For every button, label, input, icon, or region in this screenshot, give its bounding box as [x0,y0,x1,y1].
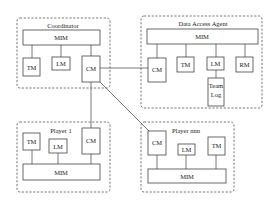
group-player-1: Player 1 TM LM CM MIM [17,122,110,192]
group-coordinator: Coordinator MIM TM LM CM [17,18,110,88]
coordinator-title: Coordinator [47,22,79,29]
playernnn-title: Player nnn [172,127,201,134]
player1-cm-label: CM [86,137,96,144]
coordinator-lm-label: LM [56,60,66,67]
daa-lm-label: LM [211,60,221,67]
coordinator-tm-label: TM [27,64,37,71]
coordinator-cm-label: CM [86,65,96,72]
group-player-nnn: Player nnn CM LM TM MIM [141,122,234,192]
daa-title: Data Access Agent [178,20,227,27]
player1-title: Player 1 [50,127,71,134]
playernnn-cm-label: CM [152,139,162,146]
coordinator-mim-label: MIM [54,34,68,41]
player1-tm-label: TM [27,138,37,145]
group-data-access-agent: Data Access Agent MIM CM TM LM Team Log … [141,16,262,108]
architecture-diagram: Coordinator MIM TM LM CM Data Access Age… [0,0,275,206]
daa-rm-label: RM [239,61,249,68]
daa-team-log-label-2: Log [211,91,222,98]
player1-mim-label: MIM [54,169,68,176]
playernnn-lm-label: LM [182,146,192,153]
playernnn-tm-label: TM [212,142,222,149]
daa-cm-label: CM [152,66,162,73]
player1-lm-label: LM [53,143,63,150]
playernnn-mim-label: MIM [180,173,194,180]
daa-mim-label: MIM [195,33,209,40]
daa-tm-label: TM [181,61,191,68]
daa-team-log-label-1: Team [209,82,223,89]
